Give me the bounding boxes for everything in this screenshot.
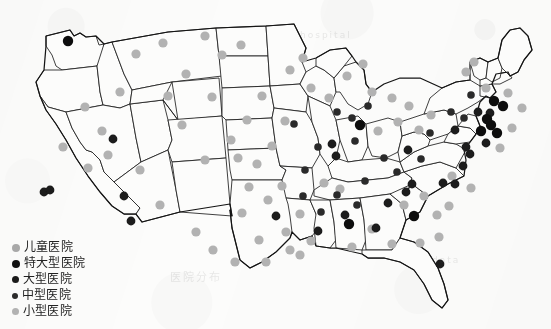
hospital-marker (252, 159, 261, 168)
hospital-marker (503, 88, 512, 97)
hospital-marker (127, 217, 136, 226)
hospital-marker (217, 50, 226, 59)
hospital-marker (267, 141, 276, 150)
hospital-marker (373, 126, 382, 135)
hospital-marker (290, 120, 298, 128)
hospital-marker (298, 53, 307, 62)
legend-item-childrens-hospital[interactable]: 儿童医院 (12, 240, 116, 255)
hospital-marker (393, 117, 402, 126)
hospital-marker (135, 165, 144, 174)
hospital-marker (261, 257, 270, 266)
legend-marker-icon (12, 244, 20, 252)
hospital-marker (402, 188, 411, 197)
hospital-marker (120, 192, 129, 201)
hospital-marker (263, 195, 272, 204)
hospital-marker (447, 171, 456, 180)
hospital-marker (115, 87, 124, 96)
hospital-marker (404, 101, 413, 110)
hospital-marker (417, 155, 425, 163)
hospital-marker (399, 200, 408, 209)
hospital-marker (507, 123, 516, 132)
hospital-marker (83, 163, 92, 172)
legend-marker-icon (12, 260, 20, 268)
hospital-marker (80, 102, 89, 111)
hospital-marker (444, 201, 453, 210)
hospital-marker (387, 239, 396, 248)
hospital-marker (364, 102, 372, 110)
hospital-marker (158, 38, 167, 47)
hospital-marker (301, 166, 309, 174)
hospital-marker (244, 182, 253, 191)
hospital-marker (324, 93, 333, 102)
hospital-marker (462, 143, 471, 152)
hospital-marker (341, 211, 350, 220)
hospital-marker (469, 57, 478, 66)
hospital-marker (317, 208, 325, 216)
hospital-marker (280, 116, 289, 125)
legend-item-label: 大型医院 (23, 273, 72, 286)
hospital-marker (380, 154, 388, 162)
hospital-marker (353, 201, 361, 209)
hospital-marker (517, 103, 526, 112)
hospital-marker (230, 257, 239, 266)
hospital-marker (299, 192, 307, 200)
hospital-marker (233, 153, 242, 162)
hospital-marker (208, 245, 217, 254)
hospital-marker (414, 125, 423, 134)
hospital-marker (281, 227, 290, 236)
hospital-marker (347, 242, 356, 251)
hospital-marker (358, 59, 367, 68)
hospital-marker (226, 135, 235, 144)
hospital-marker (155, 200, 164, 209)
hospital-marker (328, 140, 337, 149)
hospital-marker (461, 67, 470, 76)
hospital-marker (367, 87, 376, 96)
hospital-marker (237, 208, 246, 217)
hospital-marker (419, 191, 428, 200)
hospital-marker (492, 128, 502, 138)
hospital-marker (200, 31, 209, 40)
legend-item-small-hospital[interactable]: 小型医院 (12, 304, 116, 319)
legend-marker-icon (12, 293, 18, 299)
hospital-marker (474, 108, 483, 117)
hospital-marker (163, 91, 172, 100)
legend-item-label: 特大型医院 (24, 257, 85, 270)
hospital-marker (482, 139, 491, 148)
legend-item-medium-hospital[interactable]: 中型医院 (12, 288, 116, 303)
legend-item-extra-large-hospital[interactable]: 特大型医院 (12, 256, 116, 271)
hospital-marker (451, 180, 460, 189)
hospital-marker (426, 129, 434, 137)
hospital-marker (97, 126, 106, 135)
hospital-marker (351, 137, 359, 145)
hospital-marker (432, 210, 441, 219)
hospital-marker (387, 93, 396, 102)
hospital-marker (489, 96, 499, 106)
hospital-marker (295, 250, 304, 259)
hospital-marker (242, 115, 251, 124)
hospital-marker (200, 155, 209, 164)
legend-item-large-hospital[interactable]: 大型医院 (12, 272, 116, 287)
hospital-marker (460, 114, 468, 122)
hospital-marker (295, 209, 304, 218)
hospital-marker (404, 146, 413, 155)
hospital-marker (436, 260, 445, 269)
hospital-marker (306, 83, 315, 92)
legend-marker-icon (12, 308, 19, 315)
hospital-marker (459, 162, 468, 171)
hospital-marker (467, 91, 475, 99)
hospital-marker (409, 211, 419, 221)
hospital-marker (495, 143, 504, 152)
hospital-marker (207, 92, 216, 101)
hospital-marker (434, 232, 443, 241)
legend-item-label: 中型医院 (22, 289, 71, 302)
hospital-marker (314, 143, 322, 151)
hospital-marker (277, 181, 286, 190)
hospital-marker (319, 178, 328, 187)
map-legend: 儿童医院特大型医院大型医院中型医院小型医院 (12, 240, 116, 320)
hospital-marker (131, 49, 140, 58)
hospital-marker (181, 69, 190, 78)
hospital-marker (177, 120, 186, 129)
hospital-marker (447, 108, 455, 116)
hospital-marker (451, 126, 460, 135)
hospital-marker (372, 224, 381, 233)
